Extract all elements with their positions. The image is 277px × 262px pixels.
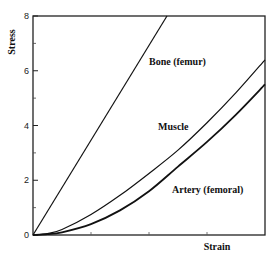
bone-series-label: Bone (femur) (149, 56, 206, 68)
y-tick-label: 4 (24, 121, 29, 131)
plot-border (33, 16, 265, 235)
y-axis-ticks: 02468 (24, 11, 38, 240)
y-axis-title: Stress (6, 29, 17, 54)
artery-series-label: Artery (femoral) (172, 184, 243, 196)
series-group (33, 16, 265, 235)
x-axis-title: Strain (204, 241, 231, 252)
plot-frame (33, 16, 265, 235)
bone-curve (33, 16, 167, 235)
y-tick-label: 2 (24, 175, 29, 185)
muscle-series-label: Muscle (158, 121, 189, 132)
stress-strain-chart: 02468 Stress Strain Bone (femur) Muscle … (0, 0, 277, 262)
muscle-curve (33, 60, 265, 235)
y-tick-label: 0 (24, 230, 29, 240)
artery-curve (33, 84, 265, 235)
y-tick-label: 6 (24, 66, 29, 76)
y-tick-label: 8 (24, 11, 29, 21)
